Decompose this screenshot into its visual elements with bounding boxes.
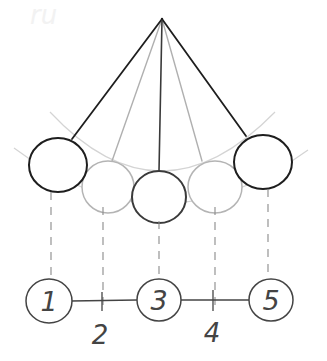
- ball-3: [132, 171, 186, 223]
- point-label-1: 1: [40, 286, 57, 317]
- point-label-5: 5: [262, 285, 279, 316]
- tick-label-2: 2: [92, 320, 109, 350]
- string-ball-2: [112, 19, 162, 161]
- string-ball-5: [162, 19, 246, 136]
- pendulum-diagram: ru 1 3 5 2: [0, 0, 327, 361]
- pendulum-balls: [29, 135, 292, 223]
- string-ball-4: [162, 19, 202, 161]
- pivot-point: [161, 18, 163, 20]
- ball-1: [29, 138, 87, 192]
- watermark-text: ru: [30, 0, 57, 30]
- string-ball-1: [72, 19, 162, 139]
- ball-5: [234, 135, 292, 189]
- pendulum-strings: [72, 19, 246, 171]
- string-ball-3: [159, 19, 162, 171]
- ball-2: [82, 161, 134, 213]
- tick-label-4: 4: [204, 318, 221, 348]
- point-label-3: 3: [150, 285, 167, 316]
- number-line-segment-1-3: [71, 300, 137, 301]
